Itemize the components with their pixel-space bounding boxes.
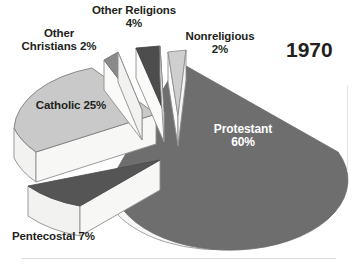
- slice-label-protestant: Protestant 60%: [196, 123, 290, 150]
- slice-label-pentecostal: Pentecostal 7%: [12, 230, 142, 243]
- right-divider: [347, 86, 348, 172]
- pie-chart: Other Religions 4% Other Christians 2% N…: [0, 0, 354, 273]
- slice-label-other-religions: Other Religions 4%: [72, 4, 196, 30]
- slice-label-catholic: Catholic 25%: [16, 99, 126, 112]
- slice-label-other-christians: Other Christians 2%: [8, 27, 110, 53]
- bottom-divider: [22, 258, 336, 259]
- chart-year-label: 1970: [286, 38, 348, 62]
- slice-label-nonreligious: Nonreligious 2%: [168, 30, 272, 56]
